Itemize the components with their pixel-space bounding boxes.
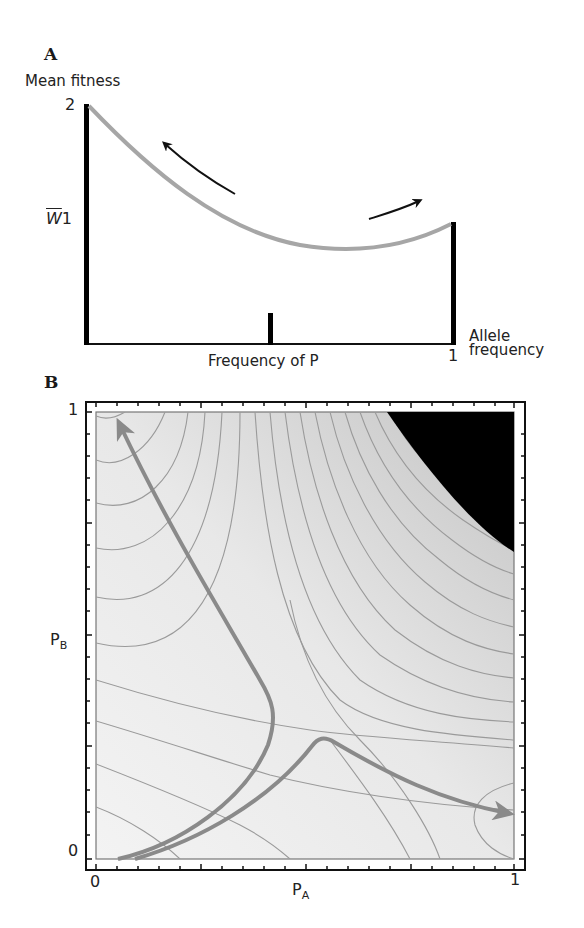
panel-b-x-tick-0: 0 (90, 872, 100, 891)
panel-a-left-bar (84, 104, 89, 345)
pb-main: P (50, 630, 60, 649)
panel-a-plot (84, 104, 456, 345)
pa-sub: A (302, 889, 310, 902)
panel-a-right-bar (451, 222, 456, 345)
panel-b-plot (86, 402, 525, 870)
panel-b-y-tick-0: 0 (68, 841, 78, 860)
chart-svg (0, 0, 584, 928)
pa-main: P (292, 880, 302, 899)
pb-sub: B (60, 639, 68, 652)
panel-b-y-tick-1: 1 (68, 400, 78, 419)
panel-a-mid-tick (268, 313, 273, 345)
panel-b-label: B (44, 372, 58, 392)
panel-b-x-axis-title: PA (292, 880, 309, 899)
panel-b-y-axis-title: PB (50, 630, 67, 649)
panel-b-x-tick-1: 1 (510, 870, 520, 889)
panel-a-fitness-curve (89, 106, 451, 249)
panel-a-arrow-right-icon (369, 201, 419, 219)
